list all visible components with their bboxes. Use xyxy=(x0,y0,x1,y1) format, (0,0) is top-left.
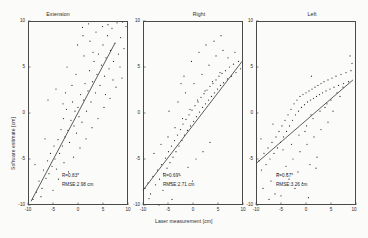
y-tick-label: 10 xyxy=(240,18,253,23)
y-tick-label: 5 xyxy=(127,64,140,69)
scatter-svg-extension xyxy=(28,21,128,205)
x-tick-label: 0 xyxy=(70,207,86,212)
x-tick-label: 0 xyxy=(298,207,314,212)
x-tick-label: 0 xyxy=(185,207,201,212)
x-tick-label: -5 xyxy=(160,207,176,212)
y-tick-label: 5 xyxy=(12,64,25,69)
x-tick-label: -10 xyxy=(135,207,151,212)
y-tick-label: -5 xyxy=(240,156,253,161)
y-tick-label: -5 xyxy=(127,156,140,161)
x-tick-label: 10 xyxy=(346,207,362,212)
scatter-svg-left xyxy=(256,21,356,205)
panel-left: Left 10 5 0 -5 -10 -10 -5 0 5 10 R=0.67*… xyxy=(228,0,368,238)
y-tick-label: 0 xyxy=(240,110,253,115)
x-tick-label: 5 xyxy=(323,207,339,212)
x-tick-label: -5 xyxy=(45,207,61,212)
y-tick-label: 0 xyxy=(127,110,140,115)
y-tick-label: 5 xyxy=(240,64,253,69)
y-tick-label: 0 xyxy=(12,110,25,115)
x-tick-label: 5 xyxy=(95,207,111,212)
panel-group: Extension Software estimate [cm] 10 5 0 … xyxy=(0,0,368,238)
y-axis-label: Software estimate [cm] xyxy=(10,117,16,170)
y-tick-label: 10 xyxy=(12,18,25,23)
y-tick-label: -5 xyxy=(12,156,25,161)
x-tick-label: -10 xyxy=(20,207,36,212)
x-tick-label: -10 xyxy=(248,207,264,212)
panel-title-extension: Extension xyxy=(0,11,128,17)
y-tick-label: 10 xyxy=(127,18,140,23)
panel-title-left: Left xyxy=(242,11,368,17)
x-tick-label: -5 xyxy=(273,207,289,212)
x-tick-label: 5 xyxy=(210,207,226,212)
figure-canvas: Extension Software estimate [cm] 10 5 0 … xyxy=(0,0,368,238)
x-axis-label: Laser measurement [cm] xyxy=(155,218,213,224)
